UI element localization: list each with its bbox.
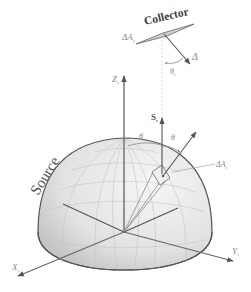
collector-normal-label: Δ	[191, 51, 198, 62]
theta-c-label: θc	[170, 67, 177, 77]
x-axis-label: Xs	[11, 262, 20, 273]
hemisphere-source-collector-diagram: Collector ΔAc Δ θc Zs Ss θs θ ΔAs Source…	[0, 0, 251, 292]
collector	[136, 24, 194, 64]
collector-normal-arrow	[164, 34, 190, 64]
s-normal-label: Ss	[151, 112, 158, 123]
collector-area-label: ΔAc	[121, 32, 136, 43]
z-axis-label: Zs	[112, 74, 119, 85]
collector-label: Collector	[143, 5, 190, 27]
theta-s-right-label: θ	[171, 133, 175, 142]
theta-c-arc	[165, 58, 183, 63]
theta-s-left-label: θs	[139, 132, 145, 142]
y-axis-label: Ys	[232, 246, 239, 257]
source-area-label: ΔAs	[215, 160, 228, 170]
